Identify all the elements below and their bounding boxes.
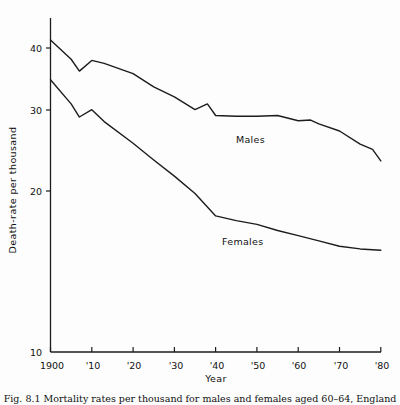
y-tick-label-10: 10 bbox=[30, 347, 42, 358]
y-tick-label-40: 40 bbox=[30, 43, 42, 54]
x-tick-label-1900: 1900 bbox=[40, 360, 64, 371]
y-axis-ticks bbox=[46, 48, 51, 191]
y-tick-label-20: 20 bbox=[30, 186, 42, 197]
x-tick-label-1970: '70 bbox=[334, 360, 349, 371]
series-line-females bbox=[51, 80, 381, 251]
series-annotation-males: Males bbox=[236, 134, 265, 145]
figure-caption: Fig. 8.1 Mortality rates per thousand fo… bbox=[0, 393, 400, 404]
y-tick-label-30: 30 bbox=[30, 105, 42, 116]
line-chart: 40 30 20 10 1900 '10 '20 '30 '40 '50 '60… bbox=[0, 0, 400, 405]
x-tick-label-1920: '20 bbox=[127, 360, 142, 371]
x-axis-title: Year bbox=[204, 373, 227, 384]
series-line-males bbox=[51, 40, 381, 161]
x-tick-label-1930: '30 bbox=[169, 360, 184, 371]
x-tick-label-1910: '10 bbox=[86, 360, 101, 371]
x-tick-label-1940: '40 bbox=[210, 360, 225, 371]
series-annotation-females: Females bbox=[222, 236, 263, 247]
y-axis-title: Death-rate per thousand bbox=[7, 127, 18, 254]
x-axis-ticks bbox=[51, 347, 381, 352]
x-tick-label-1980: '80 bbox=[375, 360, 390, 371]
x-tick-label-1960: '60 bbox=[292, 360, 307, 371]
x-tick-label-1950: '50 bbox=[251, 360, 266, 371]
figure-container: 40 30 20 10 1900 '10 '20 '30 '40 '50 '60… bbox=[0, 0, 400, 405]
